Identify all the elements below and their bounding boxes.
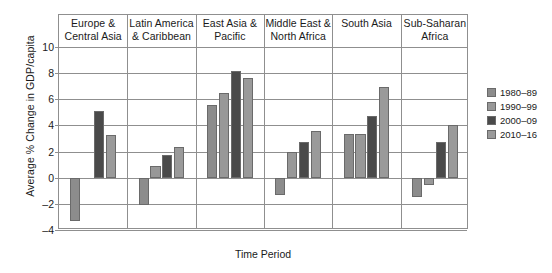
gridline [59, 99, 467, 100]
legend-label: 2010–16 [500, 129, 537, 140]
legend-swatch-icon [487, 116, 496, 125]
gridline [59, 178, 467, 179]
bar [139, 178, 149, 205]
bar [243, 78, 253, 177]
bar [106, 135, 116, 178]
group-header-line: Europe & [59, 17, 127, 30]
legend-item: 2010–16 [487, 128, 551, 141]
group-header-line: Sub-Saharan [401, 17, 469, 30]
gridline [59, 204, 467, 205]
bar [219, 93, 229, 178]
y-tick-mark [55, 152, 59, 153]
bar [412, 178, 422, 198]
bar [344, 134, 354, 178]
legend-swatch-icon [487, 88, 496, 97]
y-tick-label: 4 [14, 119, 54, 131]
y-axis-label: Average % Change in GDP/capita [24, 6, 36, 226]
x-axis-label: Time Period [58, 248, 468, 260]
y-tick-label: 2 [14, 146, 54, 158]
group-header-line: Latin America [127, 17, 195, 30]
bar [94, 111, 104, 178]
bar [70, 178, 80, 221]
plot-area: 1086420–2–4 Europe &Central AsiaLatin Am… [58, 14, 468, 229]
legend: 1980–891990–992000–092010–16 [487, 86, 551, 142]
y-tick-mark [55, 230, 59, 231]
y-tick-label: –2 [14, 198, 54, 210]
bar [287, 152, 297, 178]
bar [436, 142, 446, 178]
group-header-line: Africa [401, 30, 469, 43]
y-tick-mark [55, 73, 59, 74]
bar [275, 178, 285, 196]
bar [174, 147, 184, 178]
y-tick-label: –4 [14, 224, 54, 236]
y-tick-mark [55, 125, 59, 126]
group-header: Europe &Central Asia [59, 17, 127, 42]
bar [424, 178, 434, 185]
group-header: Middle East &North Africa [264, 17, 332, 42]
group-header-line: North Africa [264, 30, 332, 43]
bar [448, 125, 458, 177]
group-header-line: East Asia & [196, 17, 264, 30]
bar [299, 142, 309, 178]
group-header-line: Central Asia [59, 30, 127, 43]
bar-chart: Average % Change in GDP/capita 1086420–2… [0, 0, 552, 273]
group-header: East Asia &Pacific [196, 17, 264, 42]
y-tick-label: 6 [14, 93, 54, 105]
legend-item: 1980–89 [487, 86, 551, 99]
bar [379, 87, 389, 178]
bar [150, 166, 160, 178]
gridline [59, 73, 467, 74]
bar [367, 116, 377, 178]
y-tick-mark [55, 178, 59, 179]
group-header-line: South Asia [332, 17, 400, 30]
legend-swatch-icon [487, 102, 496, 111]
legend-item: 1990–99 [487, 100, 551, 113]
bar [231, 71, 241, 178]
legend-swatch-icon [487, 130, 496, 139]
group-header: Sub-SaharanAfrica [401, 17, 469, 42]
gridline [59, 125, 467, 126]
header-divider [59, 47, 467, 48]
legend-label: 1990–99 [500, 101, 537, 112]
group-header: South Asia [332, 17, 400, 30]
group-header-line: Middle East & [264, 17, 332, 30]
y-tick-mark [55, 204, 59, 205]
bar [162, 155, 172, 178]
y-tick-label: 8 [14, 67, 54, 79]
group-header-line: & Caribbean [127, 30, 195, 43]
legend-label: 1980–89 [500, 87, 537, 98]
y-tick-mark [55, 99, 59, 100]
group-header: Latin America& Caribbean [127, 17, 195, 42]
y-tick-label: 10 [14, 41, 54, 53]
y-tick-label: 0 [14, 172, 54, 184]
legend-label: 2000–09 [500, 115, 537, 126]
group-header-line: Pacific [196, 30, 264, 43]
gridline [59, 152, 467, 153]
bar [311, 131, 321, 178]
bar [207, 105, 217, 178]
gridline [59, 230, 467, 231]
bar [355, 134, 365, 178]
legend-item: 2000–09 [487, 114, 551, 127]
